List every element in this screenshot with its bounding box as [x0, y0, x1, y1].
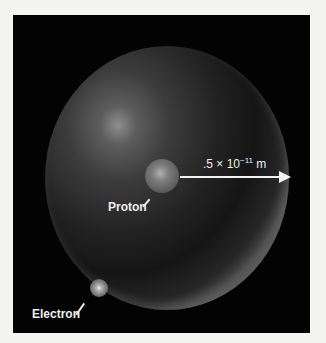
proton-sphere: [145, 159, 179, 193]
proton-label: Proton: [108, 200, 147, 214]
radius-unit: m: [253, 157, 266, 171]
radius-label: .5 × 10−11 m: [203, 156, 266, 171]
diagram-panel: .5 × 10−11 m Proton Electron: [13, 15, 310, 333]
arrow-head-icon: [279, 171, 291, 183]
electron-sphere: [90, 279, 108, 297]
electron-label: Electron: [32, 307, 80, 321]
radius-exponent: −11: [240, 156, 253, 165]
radius-value: .5 × 10: [203, 157, 240, 171]
radius-arrow-line: [180, 176, 281, 178]
